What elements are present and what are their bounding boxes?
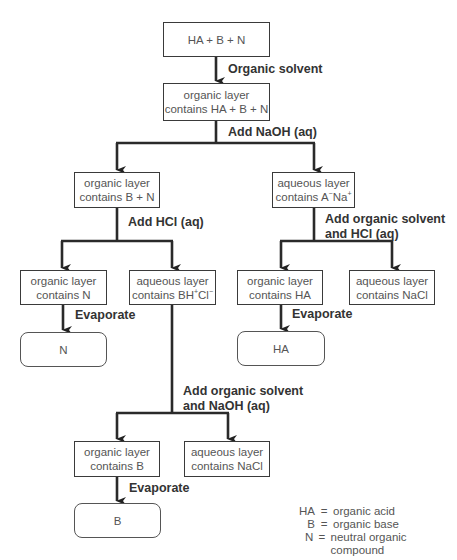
aqueous-layer-nacl-box-2: aqueous layer contains NaCl bbox=[184, 441, 270, 477]
start-mixture-box: HA + B + N bbox=[163, 22, 270, 57]
legend-row: N = neutral organic compound bbox=[283, 531, 457, 557]
box-line: aqueous layer bbox=[277, 176, 349, 190]
box-line: contains HA + B + N bbox=[165, 102, 269, 116]
step-add-solvent-naoh: Add organic solvent and NaOH (aq) bbox=[183, 384, 303, 414]
legend: HA = organic acid B = organic base N = n… bbox=[283, 505, 457, 557]
legend-eq: = bbox=[315, 518, 333, 531]
legend-value: organic acid bbox=[333, 505, 395, 518]
product-label: HA bbox=[273, 342, 289, 356]
step-evaporate-ha: Evaporate bbox=[292, 307, 352, 322]
start-mixture-label: HA + B + N bbox=[188, 33, 246, 47]
step-line: Add organic solvent bbox=[183, 384, 303, 399]
box-line: contains B + N bbox=[79, 190, 154, 204]
step-line: and HCl (aq) bbox=[325, 227, 445, 242]
legend-row: B = organic base bbox=[283, 518, 457, 531]
legend-eq: = bbox=[315, 505, 333, 518]
box-line: contains N bbox=[36, 288, 90, 302]
text: Na bbox=[333, 191, 348, 203]
text: contains A bbox=[276, 191, 329, 203]
box-line: contains HA bbox=[249, 288, 311, 302]
step-organic-solvent: Organic solvent bbox=[228, 62, 322, 77]
product-b-box: B bbox=[74, 503, 161, 538]
legend-value: neutral organic compound bbox=[331, 531, 457, 557]
text: Cl bbox=[198, 289, 209, 301]
box-line: aqueous layer bbox=[356, 274, 428, 288]
box-line: contains NaCl bbox=[191, 459, 263, 473]
organic-layer-ha-b-n-box: organic layer contains HA + B + N bbox=[163, 83, 270, 121]
legend-key: N bbox=[283, 531, 313, 557]
box-line: contains A−Na+ bbox=[276, 190, 352, 204]
text: contains BH bbox=[132, 289, 194, 301]
aqueous-layer-nacl-box-1: aqueous layer contains NaCl bbox=[349, 270, 435, 305]
charge: − bbox=[209, 288, 213, 295]
box-line: organic layer bbox=[31, 274, 97, 288]
box-line: organic layer bbox=[247, 274, 313, 288]
box-line: contains NaCl bbox=[356, 288, 428, 302]
step-add-naoh: Add NaOH (aq) bbox=[228, 125, 317, 140]
box-line: organic layer bbox=[184, 88, 250, 102]
aqueous-layer-bh-cl-box: aqueous layer contains BH+Cl− bbox=[129, 270, 216, 305]
step-add-solvent-hcl: Add organic solvent and HCl (aq) bbox=[325, 212, 445, 242]
box-line: aqueous layer bbox=[191, 445, 263, 459]
legend-value: organic base bbox=[333, 518, 399, 531]
step-line: Add organic solvent bbox=[325, 212, 445, 227]
box-line: organic layer bbox=[84, 445, 150, 459]
product-label: B bbox=[114, 514, 122, 528]
step-evaporate-b: Evaporate bbox=[129, 481, 189, 496]
organic-layer-ha-box: organic layer contains HA bbox=[237, 270, 323, 305]
step-evaporate-n: Evaporate bbox=[75, 308, 135, 323]
step-line: and NaOH (aq) bbox=[183, 399, 303, 414]
organic-layer-b-n-box: organic layer contains B + N bbox=[74, 172, 160, 208]
organic-layer-b-box: organic layer contains B bbox=[74, 441, 160, 477]
product-label: N bbox=[59, 343, 67, 357]
box-line: contains BH+Cl− bbox=[132, 288, 213, 302]
step-add-hcl: Add HCl (aq) bbox=[128, 215, 204, 230]
box-line: contains B bbox=[90, 459, 144, 473]
organic-layer-n-box: organic layer contains N bbox=[20, 270, 107, 305]
box-line: aqueous layer bbox=[136, 274, 208, 288]
legend-eq: = bbox=[313, 531, 330, 557]
charge: + bbox=[347, 190, 351, 197]
aqueous-layer-a-na-box: aqueous layer contains A−Na+ bbox=[272, 172, 355, 208]
product-ha-box: HA bbox=[237, 331, 325, 366]
box-line: organic layer bbox=[84, 176, 150, 190]
legend-key: B bbox=[283, 518, 315, 531]
product-n-box: N bbox=[20, 332, 107, 367]
legend-key: HA bbox=[283, 505, 315, 518]
legend-row: HA = organic acid bbox=[283, 505, 457, 518]
